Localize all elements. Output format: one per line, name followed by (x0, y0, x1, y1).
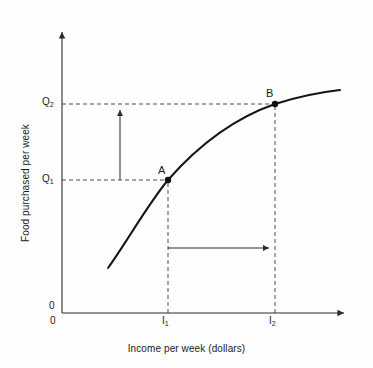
engel-curve-figure: Food purchased per week Income per week … (0, 0, 373, 368)
x-tick-label-i2-subscript: 2 (272, 320, 276, 327)
chart-canvas (0, 0, 373, 368)
data-point-b-label: B (266, 88, 273, 99)
y-axis-title: Food purchased per week (21, 103, 31, 263)
x-tick-label-i1-subscript: 1 (165, 320, 169, 327)
x-tick-label-i2: I2 (269, 316, 276, 326)
data-point-a (165, 177, 171, 183)
y-axis-origin-label: 0 (49, 301, 55, 311)
data-point-a-label: A (158, 165, 165, 176)
y-tick-label-q2-base: Q (42, 96, 50, 107)
y-tick-label-q1-base: Q (42, 173, 50, 184)
data-point-b (272, 101, 278, 107)
x-axis-origin-label: 0 (50, 316, 56, 326)
x-axis-title: Income per week (dollars) (0, 344, 373, 354)
y-tick-label-q1: Q1 (42, 174, 54, 184)
x-tick-label-i1: I1 (162, 316, 169, 326)
y-tick-label-q2-subscript: 2 (50, 101, 54, 108)
y-tick-label-q1-subscript: 1 (50, 178, 54, 185)
y-tick-label-q2: Q2 (42, 97, 54, 107)
engel-curve (108, 90, 340, 268)
